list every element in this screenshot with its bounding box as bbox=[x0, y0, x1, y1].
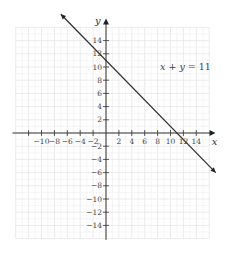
x-tick-label: 14 bbox=[192, 137, 202, 146]
x-tick-label: −6 bbox=[62, 137, 73, 146]
equation-label: x + y = 11 bbox=[160, 61, 211, 72]
x-tick-label: 8 bbox=[155, 137, 160, 146]
y-tick-label: 8 bbox=[97, 76, 102, 85]
y-tick-label: −8 bbox=[91, 181, 102, 190]
x-tick-label: 4 bbox=[129, 137, 134, 146]
x-tick-label: 12 bbox=[179, 137, 189, 146]
y-tick-label: −14 bbox=[86, 221, 102, 230]
y-tick-label: −10 bbox=[86, 195, 102, 204]
x-tick-label: 2 bbox=[117, 137, 122, 146]
x-tick-label: −10 bbox=[34, 137, 50, 146]
y-tick-label: −4 bbox=[91, 155, 102, 164]
y-tick-label: −2 bbox=[91, 142, 102, 151]
x-tick-label: 6 bbox=[142, 137, 147, 146]
y-tick-label: 10 bbox=[92, 63, 102, 72]
y-tick-label: 14 bbox=[92, 36, 102, 45]
x-axis-label: x bbox=[212, 136, 218, 147]
y-tick-label: −12 bbox=[86, 208, 102, 217]
y-tick-label: −6 bbox=[91, 168, 102, 177]
y-tick-label: 2 bbox=[97, 115, 102, 124]
x-tick-label: 10 bbox=[166, 137, 176, 146]
y-tick-label: 4 bbox=[97, 102, 102, 111]
x-tick-label: −8 bbox=[49, 137, 60, 146]
axes bbox=[12, 18, 215, 239]
x-tick-label: −4 bbox=[75, 137, 86, 146]
y-axis-label: y bbox=[94, 15, 101, 26]
coordinate-plane: −10−8−6−4−224681012141412108642−2−4−6−8−… bbox=[0, 0, 234, 255]
y-tick-label: 6 bbox=[97, 89, 102, 98]
